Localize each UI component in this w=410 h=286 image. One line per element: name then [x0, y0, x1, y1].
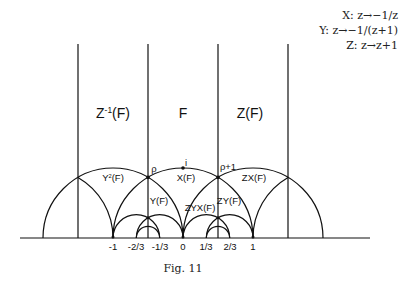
point-rho-plus-1-dot: [216, 176, 220, 180]
point-rho-dot: [146, 176, 150, 180]
arc-center-2-partial: [253, 177, 288, 238]
tick-1: 1: [250, 241, 255, 252]
region-z-f: Z(F): [237, 105, 263, 121]
label-rho-plus-1: ρ+1: [220, 161, 236, 172]
label-rho: ρ: [151, 163, 156, 174]
cusp-dot: [252, 236, 255, 239]
figure-caption: Fig. 11: [163, 262, 202, 275]
region-zy-f: ZY(F): [217, 195, 241, 206]
region-f: F: [179, 105, 188, 121]
transformation-legend: X: z→−1/z Y: z→−1/(z+1) Z: z→z+1: [319, 8, 398, 53]
legend-z: Z: z→z+1: [319, 38, 398, 53]
region-zx-f: ZX(F): [242, 172, 266, 183]
cusp-dot: [112, 236, 115, 239]
region-zyx-f: ZYX(F): [185, 202, 216, 213]
tick-neg-1: -1: [109, 241, 117, 252]
tick-neg-1-3: -1/3: [152, 241, 168, 252]
legend-y: Y: z→−1/(z+1): [319, 23, 398, 38]
arc-center-neg2-partial: [78, 177, 113, 238]
cusp-dot: [182, 236, 185, 239]
label-i: i: [185, 157, 187, 168]
tick-1-3: 1/3: [199, 241, 212, 252]
tick-2-3: 2/3: [223, 241, 236, 252]
tick-neg-2-3: -2/3: [128, 241, 144, 252]
region-y2-f: Y2(F): [102, 172, 124, 183]
vertex-dot: [147, 216, 150, 219]
region-z-inverse-f: Z-1(F): [96, 105, 130, 121]
vertex-dot: [217, 216, 220, 219]
region-y-f: Y(F): [150, 195, 168, 206]
tick-0: 0: [180, 241, 185, 252]
region-x-f: X(F): [177, 172, 195, 183]
legend-x: X: z→−1/z: [319, 8, 398, 23]
